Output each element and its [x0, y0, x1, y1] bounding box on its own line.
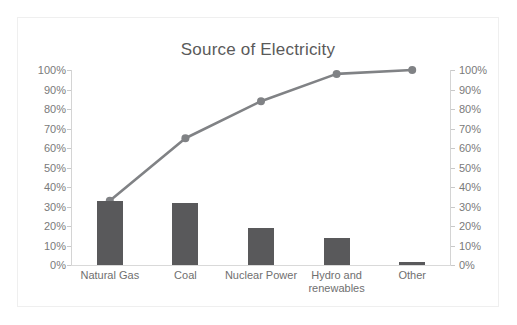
right-axis-tick-label: 20%	[459, 221, 481, 232]
left-axis-tick-mark	[67, 207, 71, 208]
right-axis-tick-mark	[451, 90, 455, 91]
left-axis-tick-label: 100%	[38, 65, 66, 76]
chart-title: Source of Electricity	[18, 40, 498, 60]
category-label: Coal	[148, 269, 224, 282]
right-axis-tick-mark	[451, 207, 455, 208]
left-axis-tick-label: 70%	[44, 124, 66, 135]
left-axis-tick-mark	[67, 148, 71, 149]
left-axis-tick-label: 0%	[50, 260, 66, 271]
right-axis-tick-label: 30%	[459, 202, 481, 213]
right-axis-tick-mark	[451, 187, 455, 188]
right-axis-tick-mark	[451, 129, 455, 130]
right-axis-tick-mark	[451, 226, 455, 227]
bar-hydro-and-renewables	[324, 238, 350, 265]
left-axis-tick-mark	[67, 109, 71, 110]
right-axis-tick-label: 0%	[459, 260, 475, 271]
category-label: Hydro and renewables	[299, 269, 375, 295]
right-axis-tick-label: 40%	[459, 182, 481, 193]
category-axis-line	[71, 265, 451, 266]
right-axis-tick-label: 90%	[459, 85, 481, 96]
left-axis-tick-label: 80%	[44, 104, 66, 115]
right-axis-tick-label: 100%	[459, 65, 487, 76]
right-axis-tick-mark	[451, 168, 455, 169]
right-axis-tick-label: 50%	[459, 163, 481, 174]
bar-nuclear-power	[248, 228, 274, 265]
left-axis-tick-mark	[67, 265, 71, 266]
bar-coal	[172, 203, 198, 265]
line-marker-hydro-and-renewables	[333, 70, 341, 78]
left-axis-tick-mark	[67, 187, 71, 188]
right-axis-tick-mark	[451, 109, 455, 110]
right-axis-tick-label: 60%	[459, 143, 481, 154]
left-axis-tick-mark	[67, 226, 71, 227]
line-marker-other	[408, 66, 416, 74]
left-axis-tick-mark	[67, 168, 71, 169]
category-label: Nuclear Power	[223, 269, 299, 282]
left-axis-tick-label: 50%	[44, 163, 66, 174]
line-marker-coal	[181, 134, 189, 142]
bar-other	[399, 262, 425, 265]
right-axis-tick-mark	[451, 246, 455, 247]
right-axis-labels: 100%90%80%70%60%50%40%30%20%10%0%	[459, 70, 503, 265]
left-axis-tick-label: 40%	[44, 182, 66, 193]
right-axis-tick-mark	[451, 70, 455, 71]
left-axis-tick-label: 60%	[44, 143, 66, 154]
left-axis-tick-label: 30%	[44, 202, 66, 213]
category-axis-labels: Natural GasCoalNuclear PowerHydro and re…	[72, 269, 450, 309]
right-axis-tick-mark	[451, 265, 455, 266]
right-axis-tick-label: 80%	[459, 104, 481, 115]
left-axis-tick-mark	[67, 90, 71, 91]
bar-natural-gas	[97, 201, 123, 265]
left-axis-labels: 100%90%80%70%60%50%40%30%20%10%0%	[22, 70, 66, 265]
left-axis-tick-label: 20%	[44, 221, 66, 232]
left-axis-tick-mark	[67, 129, 71, 130]
category-label: Other	[374, 269, 450, 282]
right-axis-tick-mark	[451, 148, 455, 149]
plot-area	[72, 70, 450, 265]
left-axis-tick-label: 90%	[44, 85, 66, 96]
category-label: Natural Gas	[72, 269, 148, 282]
left-axis-tick-label: 10%	[44, 241, 66, 252]
line-marker-nuclear-power	[257, 97, 265, 105]
left-axis-tick-mark	[67, 70, 71, 71]
right-axis-tick-label: 10%	[459, 241, 481, 252]
cumulative-line	[110, 70, 412, 201]
left-axis-tick-mark	[67, 246, 71, 247]
right-axis-tick-label: 70%	[459, 124, 481, 135]
